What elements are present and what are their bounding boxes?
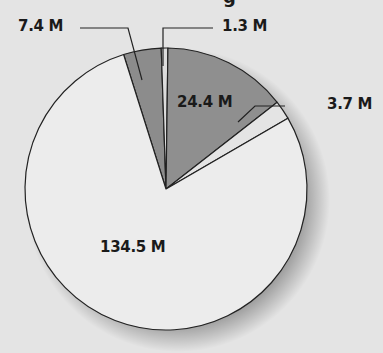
slice-label-3-7m: 3.7 M bbox=[327, 95, 372, 113]
pie-slices bbox=[25, 48, 307, 330]
slice-label-7-4m: 7.4 M bbox=[18, 17, 63, 35]
slice-label-24-4m: 24.4 M bbox=[177, 93, 232, 111]
pie-svg bbox=[0, 0, 383, 353]
pie-chart: g 7.4 M 1.3 M 24.4 M 3.7 M 134.5 M bbox=[0, 0, 383, 353]
slice-label-1-3m: 1.3 M bbox=[222, 17, 267, 35]
slice-label-134-5m: 134.5 M bbox=[100, 238, 166, 256]
